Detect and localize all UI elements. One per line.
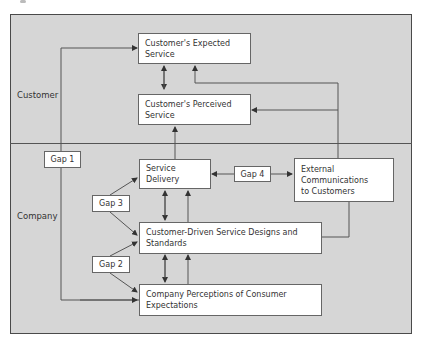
- box-service-delivery-label: Service Delivery: [146, 163, 210, 185]
- gap-2-label: Gap 2: [92, 256, 130, 273]
- box-expected-service: Customer's Expected Service: [138, 33, 251, 64]
- box-service-delivery: Service Delivery: [139, 159, 211, 189]
- gap-1-text: Gap 1: [51, 155, 75, 164]
- region-label-customer: Customer: [17, 90, 58, 100]
- region-label-company: Company: [17, 211, 57, 221]
- box-external-communications: External Communications to Customers: [294, 158, 394, 202]
- box-company-perceptions: Company Perceptions of Consumer Expectat…: [139, 284, 322, 316]
- box-service-designs-label: Customer-Driven Service Designs and Stan…: [146, 227, 321, 249]
- gap-2-text: Gap 2: [99, 260, 123, 269]
- gap-3-text: Gap 3: [99, 199, 123, 208]
- gap-1-label: Gap 1: [44, 151, 81, 168]
- box-perceived-service: Customer's Perceived Service: [138, 94, 251, 125]
- box-external-communications-line2: to Customers: [301, 186, 355, 197]
- box-service-designs: Customer-Driven Service Designs and Stan…: [139, 222, 322, 254]
- box-perceived-service-label: Customer's Perceived Service: [145, 99, 250, 121]
- gap-4-label: Gap 4: [234, 166, 271, 182]
- gap-4-text: Gap 4: [241, 170, 265, 179]
- box-external-communications-line1: External Communications: [301, 164, 393, 186]
- gap-3-label: Gap 3: [92, 195, 130, 212]
- box-company-perceptions-label: Company Perceptions of Consumer Expectat…: [146, 289, 321, 311]
- box-expected-service-label: Customer's Expected Service: [145, 38, 250, 60]
